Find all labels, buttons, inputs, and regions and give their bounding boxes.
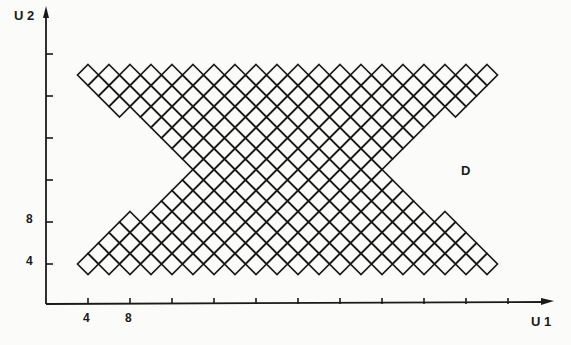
lattice-diamond: [225, 128, 246, 149]
lattice-diamond: [393, 212, 414, 233]
lattice-diamond: [172, 117, 193, 138]
lattice-diamond: [88, 243, 109, 264]
lattice-diamond: [120, 233, 141, 254]
lattice-diamond: [172, 138, 193, 159]
lattice-diamond: [361, 96, 382, 117]
lattice-diamond: [382, 180, 403, 201]
lattice-diamond: [120, 86, 141, 107]
lattice-diamond: [225, 86, 246, 107]
y-tick-label-8: 8: [26, 212, 33, 226]
lattice-diamond: [246, 191, 267, 212]
lattice-diamond: [340, 159, 361, 180]
lattice-diamond: [277, 138, 298, 159]
lattice-diamond: [277, 75, 298, 96]
lattice-diamond: [466, 243, 487, 264]
lattice-diamond: [330, 212, 351, 233]
lattice-diamond: [372, 212, 393, 233]
lattice-diamond: [330, 65, 351, 86]
lattice-diamond: [193, 201, 214, 222]
lattice-diamond: [109, 96, 130, 117]
lattice-diamond: [172, 222, 193, 243]
lattice-diamond: [172, 75, 193, 96]
lattice-diamond: [267, 149, 288, 170]
lattice-diamond: [225, 254, 246, 275]
lattice-diamond: [330, 170, 351, 191]
lattice-diamond: [130, 75, 151, 96]
lattice-diamond: [246, 86, 267, 107]
lattice-diamond: [288, 254, 309, 275]
lattice-diamond: [330, 191, 351, 212]
lattice-diamond: [382, 75, 403, 96]
lattice-diamond: [183, 233, 204, 254]
lattice-diamond: [361, 75, 382, 96]
lattice-diamond: [151, 96, 172, 117]
lattice-diamond: [225, 107, 246, 128]
lattice-diamond: [183, 254, 204, 275]
lattice-diamond: [393, 254, 414, 275]
diamond-lattice: [78, 65, 498, 275]
lattice-diamond: [298, 75, 319, 96]
lattice-diamond: [183, 170, 204, 191]
lattice-diamond: [267, 86, 288, 107]
lattice-diamond: [183, 191, 204, 212]
lattice-diamond: [424, 75, 445, 96]
lattice-diamond: [256, 201, 277, 222]
lattice-diamond: [141, 86, 162, 107]
lattice-diamond: [372, 65, 393, 86]
lattice-diamond: [298, 96, 319, 117]
lattice-diamond: [246, 107, 267, 128]
lattice-diamond: [235, 180, 256, 201]
lattice-diamond: [319, 180, 340, 201]
lattice-diamond: [298, 117, 319, 138]
lattice-diamond: [414, 233, 435, 254]
lattice-diamond: [256, 222, 277, 243]
lattice-diamond: [309, 128, 330, 149]
lattice-diamond: [256, 243, 277, 264]
lattice-diamond: [361, 138, 382, 159]
lattice-diamond: [330, 128, 351, 149]
lattice-diamond: [340, 222, 361, 243]
lattice-diamond: [309, 65, 330, 86]
lattice-diamond: [351, 254, 372, 275]
lattice-diamond: [435, 254, 456, 275]
lattice-diamond: [319, 117, 340, 138]
lattice-diamond: [120, 254, 141, 275]
lattice-diamond: [361, 117, 382, 138]
lattice-diamond: [130, 222, 151, 243]
lattice-diamond: [351, 107, 372, 128]
lattice-diamond: [193, 96, 214, 117]
lattice-diamond: [309, 86, 330, 107]
lattice-diamond: [424, 96, 445, 117]
lattice-diamond: [225, 170, 246, 191]
lattice-diamond: [319, 222, 340, 243]
lattice-diamond: [309, 254, 330, 275]
lattice-diamond: [351, 191, 372, 212]
lattice-diamond: [193, 138, 214, 159]
lattice-diamond: [361, 201, 382, 222]
lattice-diamond: [414, 65, 435, 86]
lattice-diamond: [225, 233, 246, 254]
lattice-diamond: [403, 117, 424, 138]
lattice-diamond: [183, 149, 204, 170]
lattice-diamond: [172, 96, 193, 117]
lattice-diamond: [141, 212, 162, 233]
lattice-diamond: [477, 254, 498, 275]
lattice-diamond: [309, 191, 330, 212]
lattice-diamond: [393, 191, 414, 212]
lattice-diamond: [204, 191, 225, 212]
lattice-diamond: [288, 170, 309, 191]
lattice-diamond: [340, 180, 361, 201]
lattice-diamond: [445, 75, 466, 96]
axes: [43, 6, 554, 305]
lattice-diamond: [319, 159, 340, 180]
lattice-diamond: [393, 128, 414, 149]
lattice-diamond: [330, 86, 351, 107]
lattice-diamond: [298, 243, 319, 264]
lattice-diamond: [183, 65, 204, 86]
lattice-diamond: [183, 86, 204, 107]
lattice-diamond: [298, 159, 319, 180]
lattice-diamond: [267, 65, 288, 86]
lattice-diamond: [445, 222, 466, 243]
lattice-diamond: [309, 107, 330, 128]
lattice-diamond: [225, 212, 246, 233]
